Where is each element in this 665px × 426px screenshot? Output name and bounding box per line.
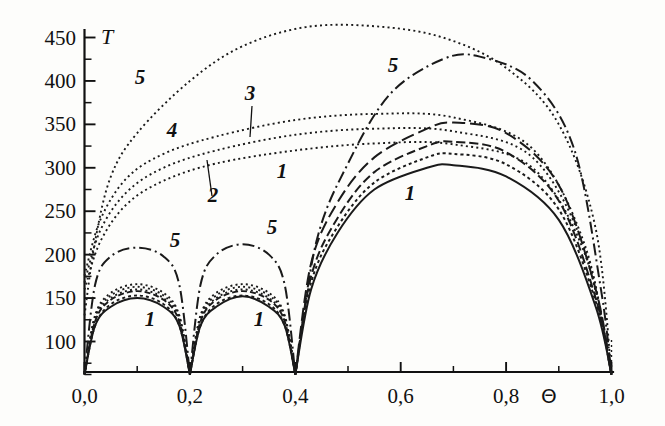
curves-group bbox=[85, 25, 612, 375]
y-tick-label: 200 bbox=[45, 243, 77, 267]
curve-label: 1 bbox=[405, 181, 416, 205]
x-tick-label: 1,0 bbox=[598, 384, 624, 408]
curve-label: 1 bbox=[254, 307, 265, 331]
curve-3 bbox=[190, 287, 295, 375]
y-tick-label: 250 bbox=[45, 199, 77, 223]
curve-label: 2 bbox=[207, 183, 219, 207]
curve-labels-group: 54321555111 bbox=[135, 53, 416, 331]
curve-label: 1 bbox=[277, 159, 288, 183]
curve-4 bbox=[85, 113, 612, 374]
x-tick-label: 0,2 bbox=[177, 384, 203, 408]
x-tick-label: 0,4 bbox=[282, 384, 309, 408]
curve-label: 5 bbox=[267, 215, 278, 239]
curve-label: 5 bbox=[170, 228, 181, 252]
y-tick-labels: 100150200250300350400450 bbox=[45, 26, 77, 354]
curve-big-lobe-family bbox=[295, 141, 611, 374]
x-tick-label: 0,6 bbox=[388, 384, 414, 408]
curve-3 bbox=[85, 128, 612, 375]
curve-big-lobe-family bbox=[295, 122, 611, 374]
curve-5-top-dotted bbox=[85, 25, 612, 375]
curve-big-lobe-family bbox=[295, 153, 611, 374]
curve-5 bbox=[295, 54, 611, 374]
curve-label: 3 bbox=[244, 81, 256, 105]
curve-label: 4 bbox=[166, 118, 178, 142]
y-axis-label: T bbox=[101, 24, 115, 49]
figure-panel: 100150200250300350400450 0,00,20,40,60,8… bbox=[0, 0, 665, 426]
curve-3 bbox=[85, 287, 190, 375]
curve-2 bbox=[85, 142, 612, 375]
y-tick-label: 450 bbox=[45, 26, 77, 50]
curve-4 bbox=[190, 284, 295, 374]
curve-label: 1 bbox=[145, 307, 156, 331]
curve-label: 5 bbox=[135, 65, 146, 89]
y-tick-label: 400 bbox=[45, 69, 77, 93]
curve-label: 5 bbox=[388, 53, 399, 77]
chart-canvas: 100150200250300350400450 0,00,20,40,60,8… bbox=[0, 0, 665, 426]
y-tick-label: 350 bbox=[45, 112, 77, 136]
x-tick-label: 0,0 bbox=[71, 384, 97, 408]
x-axis-ticks bbox=[85, 362, 612, 372]
y-tick-label: 300 bbox=[45, 156, 77, 180]
y-tick-label: 100 bbox=[45, 330, 77, 354]
x-tick-label: 0,8 bbox=[493, 384, 519, 408]
x-axis-label: Θ bbox=[541, 384, 557, 408]
curve-label-leader bbox=[250, 106, 252, 137]
y-tick-label: 150 bbox=[45, 286, 77, 310]
